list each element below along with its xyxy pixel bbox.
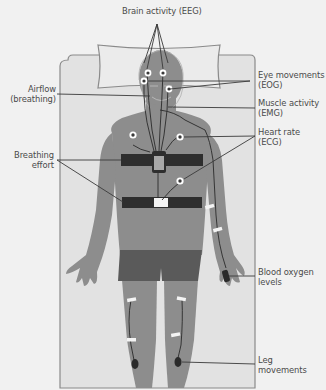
label-breathing-effort: Breathing effort	[8, 150, 54, 170]
eog-electrode-left	[141, 78, 148, 85]
ecg-electrode-lower	[176, 177, 183, 184]
polysomnography-diagram: Brain activity (EEG) Airflow (breathing)…	[0, 0, 326, 390]
label-ecg: Heart rate (ECG)	[258, 127, 300, 147]
shorts	[118, 250, 202, 281]
label-eeg: Brain activity (EEG)	[122, 6, 202, 16]
recorder-device	[152, 151, 166, 173]
label-airflow: Airflow (breathing)	[8, 84, 56, 104]
label-leg-movements: Leg movements	[258, 355, 307, 375]
abdominal-belt	[122, 197, 202, 208]
eeg-electrode-left	[145, 70, 152, 77]
label-eog: Eye movements (EOG)	[258, 70, 324, 90]
ecg-electrode-right	[176, 133, 183, 140]
label-emg: Muscle activity (EMG)	[258, 98, 319, 118]
ecg-electrode-left	[129, 131, 136, 138]
label-blood-oxygen: Blood oxygen levels	[258, 267, 314, 287]
eeg-electrode-right	[160, 70, 167, 77]
diagram-canvas	[0, 0, 326, 390]
